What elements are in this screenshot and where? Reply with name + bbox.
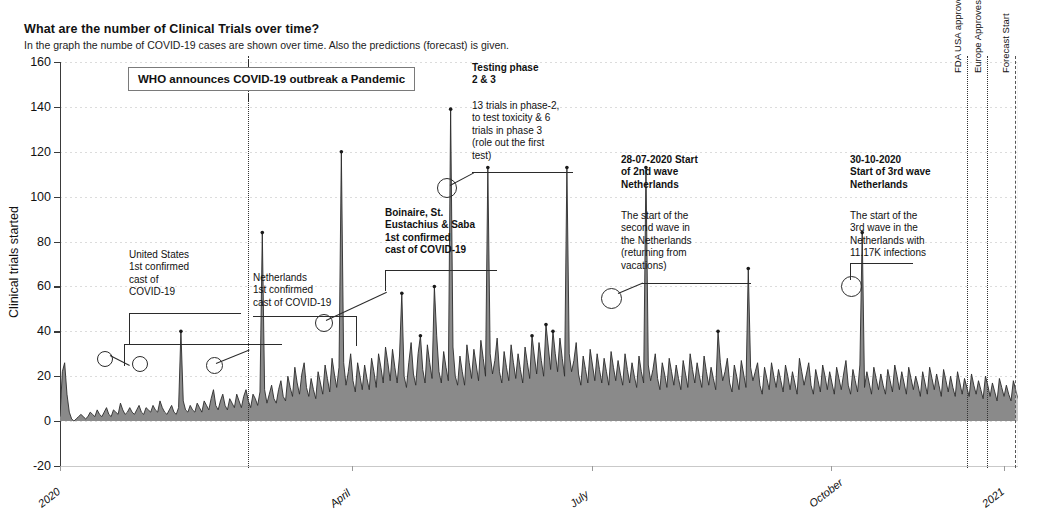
event-line-europe-pfizer <box>987 56 988 468</box>
peak-marker <box>179 330 183 334</box>
annotation-third-wave-heading: 30-10-2020 Start of 3rd wave Netherlands <box>850 154 931 191</box>
y-tick-label: 0 <box>44 414 51 428</box>
x-tick-label: 2020 <box>36 485 63 510</box>
event-label-fda-usa-pfizer: FDA USA approves Pfizer vaccine <box>952 0 963 73</box>
nl-leader-v <box>356 316 357 346</box>
annotation-bonaire-heading: Boinaire, St. Eustachius & Saba 1st conf… <box>385 207 475 257</box>
x-tick-label: October <box>807 476 845 510</box>
peak-marker <box>486 166 490 170</box>
peak-marker <box>565 166 569 170</box>
annotation-third-wave-body: The start of the 3rd wave in the Netherl… <box>850 210 926 260</box>
peak-marker <box>261 231 265 235</box>
who-leader-top <box>248 60 249 67</box>
test-leader-h <box>472 172 573 173</box>
x-tick-label: July <box>567 488 590 510</box>
peak-marker <box>551 330 555 334</box>
y-tick-label: 120 <box>30 145 51 159</box>
w3-leader-h <box>850 263 913 264</box>
y-tick-label: 80 <box>37 235 51 249</box>
annotation-second-wave-body: The start of the second wave in the Neth… <box>621 210 692 272</box>
peak-marker <box>419 334 423 338</box>
x-axis-line <box>60 466 1018 467</box>
y-tick-label: 160 <box>30 55 51 69</box>
us-marker-circle <box>97 351 113 367</box>
y-tick-label: 100 <box>30 190 51 204</box>
x-tick <box>592 466 593 471</box>
annotation-second-wave-heading: 28-07-2020 Start of 2nd wave Netherlands <box>621 154 698 191</box>
who-leader-bottom <box>248 94 249 102</box>
chart-page: What are the number of Clinical Trials o… <box>0 0 1052 528</box>
x-tick <box>352 466 353 471</box>
event-line-forecast-start <box>1015 56 1016 468</box>
x-tick <box>831 466 832 471</box>
us-marker-circle-3 <box>206 357 223 374</box>
x-tick <box>60 466 61 471</box>
peak-marker <box>544 323 548 327</box>
annotation-testing-phase-heading: Testing phase 2 & 3 <box>472 62 539 87</box>
x-tick-label: 2021 <box>979 485 1006 510</box>
us-leader-h <box>129 313 241 314</box>
peak-marker <box>716 330 720 334</box>
bon-leader-v <box>385 270 386 291</box>
annotation-testing-phase-body: 13 trials in phase-2, to test toxicity &… <box>472 100 559 162</box>
peak-marker <box>449 107 453 111</box>
peak-marker <box>340 150 344 154</box>
w2-leader-h <box>642 283 751 284</box>
peak-marker <box>746 267 750 271</box>
us2-leader-h <box>124 344 282 345</box>
peak-marker <box>530 334 534 338</box>
event-label-europe-pfizer: Europe Approves Pfizer Vaccine <box>972 0 983 73</box>
page-title: What are the number of Clinical Trials o… <box>24 22 319 36</box>
x-tick-label: April <box>328 487 353 510</box>
us-marker-circle-2 <box>132 356 148 372</box>
x-tick <box>1004 466 1005 471</box>
y-tick-label: 140 <box>30 100 51 114</box>
annotation-united-states: United States 1st confirmed cast of COVI… <box>129 249 189 299</box>
event-label-forecast-start: Forecast Start <box>1000 13 1011 73</box>
event-line-who-pandemic <box>248 56 249 468</box>
bonaire-marker-circle <box>315 314 333 332</box>
second-wave-marker-circle <box>601 288 622 309</box>
third-wave-marker-circle <box>841 276 862 297</box>
plot-area: 160140120100806040200-20 Clinical trials… <box>60 62 1018 466</box>
us-leader-v <box>129 313 130 344</box>
y-tick-label: 20 <box>37 369 51 383</box>
us2-leader-v <box>124 344 125 366</box>
event-line-fda-usa-pfizer <box>967 56 968 468</box>
peak-marker <box>433 285 437 289</box>
nl-leader-h <box>253 316 356 317</box>
bon-leader-h <box>385 270 497 271</box>
page-subtitle: In the graph the numbe of COVID-19 cases… <box>24 39 509 51</box>
annotation-who-pandemic: WHO announces COVID-19 outbreak a Pandem… <box>128 67 415 91</box>
y-tick-label: 60 <box>37 279 51 293</box>
y-tick-label: -20 <box>33 459 51 473</box>
peak-marker <box>400 291 404 295</box>
annotation-netherlands: Netherlands 1st confirmed cast of COVID-… <box>253 272 331 309</box>
y-axis-title: Clinical trials started <box>7 206 21 318</box>
testing-marker-circle <box>437 178 457 198</box>
y-tick-label: 40 <box>37 324 51 338</box>
